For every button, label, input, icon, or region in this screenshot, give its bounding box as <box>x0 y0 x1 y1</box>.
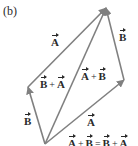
label-b-top-right: B <box>119 28 126 44</box>
vector-symbol: B <box>40 79 47 90</box>
plus-operator: + <box>89 71 99 82</box>
vector-symbol: B <box>99 71 106 82</box>
label-a-top-left: A <box>51 33 59 49</box>
label-a-lower-right: A <box>87 113 95 129</box>
vector-addition-diagram: (b) A B A+B B+A B A A+B=B+A <box>0 0 138 146</box>
label-b-left: B <box>24 112 31 128</box>
vector-symbol: A <box>120 138 128 146</box>
vector-symbol: A <box>87 117 95 128</box>
vector-symbol: A <box>68 138 76 146</box>
plus-operator: + <box>47 79 57 90</box>
label-a-plus-b: A+B <box>81 67 106 83</box>
vector-symbol: B <box>86 138 93 146</box>
vector-symbol: A <box>57 79 65 90</box>
label-b-plus-a: B+A <box>40 75 65 91</box>
commutative-equation: A+B=B+A <box>68 134 128 146</box>
plus-operator: + <box>110 138 120 146</box>
vector-symbol: B <box>119 32 126 43</box>
vector-b-right-arrow <box>106 8 124 80</box>
vector-symbol: A <box>51 37 59 48</box>
vector-symbol: B <box>24 116 31 127</box>
plus-operator: + <box>76 138 86 146</box>
part-label: (b) <box>3 5 17 17</box>
vector-symbol: B <box>103 138 110 146</box>
vector-symbol: A <box>81 71 89 82</box>
vector-arrows <box>0 0 138 146</box>
equals-operator: = <box>93 138 103 146</box>
